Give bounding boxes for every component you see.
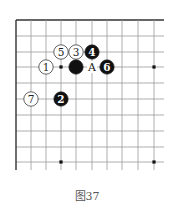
go-board-diagram: A1234567: [0, 0, 174, 180]
move-number: 5: [58, 46, 65, 58]
move-number: 2: [57, 93, 64, 105]
star-point-icon: [152, 65, 155, 68]
move-number: 7: [28, 93, 35, 105]
move-number: 1: [43, 61, 50, 73]
star-point-icon: [59, 160, 62, 163]
black-stone: [69, 60, 83, 74]
point-label-A: A: [87, 61, 97, 74]
move-number: 4: [88, 46, 95, 58]
star-point-icon: [152, 160, 155, 163]
star-point-icon: [59, 65, 62, 68]
figure-caption: 图37: [0, 187, 174, 203]
move-number: 3: [73, 46, 80, 58]
move-number: 6: [103, 61, 110, 73]
